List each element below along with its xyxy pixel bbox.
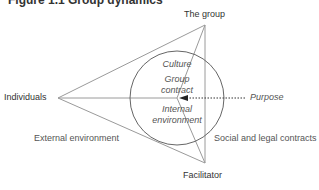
vertex-label-group: The group: [184, 9, 225, 19]
outside-label-social: Social and legal contracts: [214, 133, 317, 143]
circle-label-contract: contract: [147, 85, 207, 96]
circle-label-environment: environment: [147, 115, 207, 126]
circle-label-culture: Culture: [147, 59, 207, 70]
arrow-label-purpose: Purpose: [250, 92, 284, 103]
outside-label-external: External environment: [34, 133, 119, 143]
vertex-label-facilitator: Facilitator: [183, 170, 222, 180]
circle-label-internal: Internal: [147, 104, 207, 115]
vertex-label-individuals: Individuals: [4, 92, 47, 102]
circle-label-group: Group: [147, 74, 207, 85]
